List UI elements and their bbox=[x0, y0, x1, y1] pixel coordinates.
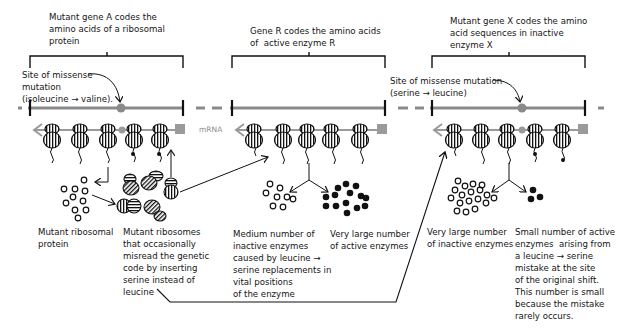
ribosomes-x bbox=[446, 124, 571, 148]
ribosome-to-gene-r-arrow bbox=[180, 157, 268, 192]
mutation-site-x bbox=[518, 104, 527, 113]
mutant-ribosomal-protein-circles bbox=[61, 177, 89, 221]
mrna-cap-r bbox=[377, 124, 387, 134]
active-enzymes-r-caption: Very large number of active enzymes bbox=[330, 228, 410, 252]
ribosomes-a bbox=[44, 124, 169, 148]
ribosomes-r bbox=[246, 124, 369, 148]
active-enzymes-x bbox=[528, 187, 544, 203]
inactive-enzymes-r-caption: Medium number of inactive enzymes caused… bbox=[233, 228, 331, 300]
mutant-ribosomal-protein-caption: Mutant ribosomal protein bbox=[38, 226, 113, 250]
mutation-site-a bbox=[117, 104, 126, 113]
inactive-enzymes-x-caption: Very large number of inactive enzymes bbox=[427, 226, 513, 250]
active-enzymes-r bbox=[323, 181, 370, 217]
mutation-site-a-label: Site of missense mutation (isoleucine → … bbox=[22, 69, 113, 105]
inactive-enzymes-x bbox=[448, 178, 497, 215]
gene-x-label: Mutant gene X codes the amino acid seque… bbox=[450, 15, 587, 51]
mrna-cap-x bbox=[578, 124, 588, 134]
mrna-cap-a bbox=[175, 124, 185, 134]
mutant-ribosomes-cluster bbox=[117, 171, 178, 221]
gene-r-bracket bbox=[232, 52, 385, 68]
mrna-label: mRNA bbox=[199, 124, 222, 136]
gene-r-label: Gene R codes the amino acids of active e… bbox=[250, 25, 381, 49]
gene-a-label: Mutant gene A codes the amino acids of a… bbox=[49, 11, 165, 47]
active-enzymes-x-caption: Small number of active enzymes arising f… bbox=[515, 226, 615, 322]
gene-x-bracket bbox=[432, 52, 585, 68]
inactive-enzymes-r bbox=[263, 181, 296, 210]
mutation-site-x-label: Site of missense mutation (serine → leuc… bbox=[390, 75, 502, 99]
mutant-ribosomes-caption: Mutant ribosomes that occasionally misre… bbox=[123, 226, 209, 298]
gene-a-bracket bbox=[30, 52, 183, 68]
